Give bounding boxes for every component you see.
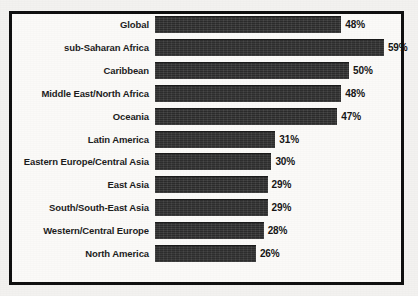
bar-row: sub-Saharan Africa59% — [12, 39, 401, 56]
bar — [155, 176, 268, 193]
category-label: South/South-East Asia — [49, 199, 149, 216]
bar — [155, 16, 341, 33]
bar-row: South/South-East Asia29% — [12, 199, 401, 216]
category-label: East Asia — [107, 176, 149, 193]
bar-value-label: 50% — [353, 62, 373, 79]
bar-row: Eastern Europe/Central Asia30% — [12, 153, 401, 170]
bar — [155, 62, 349, 79]
bar-row: Middle East/North Africa48% — [12, 85, 401, 102]
category-label: Oceania — [113, 108, 149, 125]
category-label: North America — [85, 245, 149, 262]
bar-value-label: 48% — [345, 85, 365, 102]
bar — [155, 85, 341, 102]
category-label: Global — [120, 16, 149, 33]
category-label: sub-Saharan Africa — [64, 39, 149, 56]
bar-value-label: 59% — [388, 39, 408, 56]
category-label: Middle East/North Africa — [41, 85, 149, 102]
bar-row: Global48% — [12, 16, 401, 33]
bar-value-label: 29% — [272, 176, 292, 193]
category-label: Latin America — [88, 131, 149, 148]
bar-chart-plot: Global48%sub-Saharan Africa59%Caribbean5… — [12, 14, 401, 282]
bar — [155, 199, 268, 216]
bar-value-label: 29% — [272, 199, 292, 216]
bar-value-label: 48% — [345, 16, 365, 33]
bar-row: Oceania47% — [12, 108, 401, 125]
bar-value-label: 31% — [279, 131, 299, 148]
category-label: Caribbean — [103, 62, 149, 79]
bar — [155, 131, 275, 148]
bar-row: Latin America31% — [12, 131, 401, 148]
bar — [155, 39, 384, 56]
bar-value-label: 28% — [268, 222, 288, 239]
category-label: Western/Central Europe — [43, 222, 149, 239]
bar — [155, 108, 337, 125]
bar-value-label: 47% — [341, 108, 361, 125]
bar — [155, 153, 271, 170]
bar-row: North America26% — [12, 245, 401, 262]
category-label: Eastern Europe/Central Asia — [24, 153, 149, 170]
bar — [155, 222, 264, 239]
bar-value-label: 26% — [260, 245, 280, 262]
bar-value-label: 30% — [275, 153, 295, 170]
bar-row: East Asia29% — [12, 176, 401, 193]
bar-row: Caribbean50% — [12, 62, 401, 79]
bar — [155, 245, 256, 262]
bar-row: Western/Central Europe28% — [12, 222, 401, 239]
chart-frame: Global48%sub-Saharan Africa59%Caribbean5… — [9, 11, 404, 285]
